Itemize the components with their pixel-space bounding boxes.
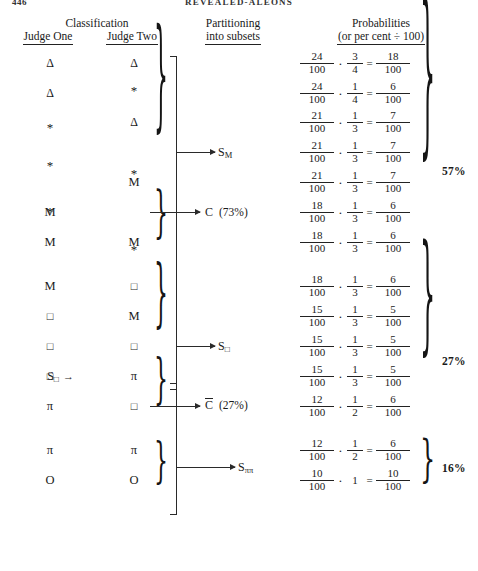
probability-first-fraction: 12100: [300, 438, 334, 461]
probability-first-fraction-denominator: 100: [300, 346, 334, 358]
probability-second-fraction-denominator: 3: [347, 286, 363, 298]
probability-second-fraction: 13: [347, 140, 363, 163]
probability-first-fraction-numerator: 10: [300, 468, 334, 479]
classification-cell-judge-one: □: [20, 340, 80, 352]
probability-result-fraction: 7100: [376, 140, 410, 163]
probability-second-fraction: 13: [347, 304, 363, 327]
probability-result-fraction: 18100: [376, 51, 410, 74]
probability-second-fraction-numerator: 1: [347, 110, 363, 121]
classification-cell-judge-one: M: [20, 206, 80, 218]
subset-pointer-base: S: [47, 369, 54, 383]
probability-row: 12100·12=6100: [300, 393, 430, 419]
probability-second-fraction: 12: [347, 394, 363, 417]
partition-label-subset-m: SM: [218, 145, 232, 160]
probability-first-fraction: 15100: [300, 364, 334, 387]
probability-second-fraction: 14: [347, 81, 363, 104]
classification-cell-judge-one: *: [20, 124, 80, 132]
partition-label-set-cbar: C(27%): [205, 398, 248, 413]
probability-second-fraction: 12: [347, 438, 363, 461]
probability-result-fraction-denominator: 100: [376, 122, 410, 134]
probability-result-fraction-denominator: 100: [376, 286, 410, 298]
probability-second-fraction-denominator: 3: [347, 376, 363, 388]
classification-cell-judge-one: M: [20, 236, 80, 248]
probability-result-fraction-denominator: 100: [376, 93, 410, 105]
classification-cell-judge-one: Δ: [20, 57, 80, 69]
probability-row: 24100·34=18100: [300, 50, 430, 76]
multiply-dot-icon: ·: [334, 205, 347, 221]
probability-first-fraction: 15100: [300, 304, 334, 327]
equals-sign: =: [363, 400, 376, 412]
probability-row: 21100·13=7100: [300, 169, 430, 195]
arrow-to-subset-box: [177, 346, 215, 347]
probability-row: 18100·13=6100: [300, 229, 430, 255]
probability-first-fraction-denominator: 100: [300, 122, 334, 134]
probability-first-fraction-numerator: 12: [300, 394, 334, 405]
classification-cell-judge-one: M: [20, 280, 80, 292]
probability-row: 15100·13=5100: [300, 303, 430, 329]
probability-first-fraction: 21100: [300, 170, 334, 193]
equals-sign: =: [363, 474, 376, 486]
probability-result-fraction-numerator: 6: [376, 438, 410, 449]
probability-second-fraction: 34: [347, 51, 363, 74]
probability-result-fraction-numerator: 6: [376, 230, 410, 241]
probability-second-fraction-denominator: 3: [347, 182, 363, 194]
partition-rule-lower-bottom-serif: [170, 514, 177, 515]
probability-result-fraction: 6100: [376, 438, 410, 461]
probability-first-fraction-denominator: 100: [300, 212, 334, 224]
probability-second-fraction-numerator: 1: [347, 304, 363, 315]
probability-result-fraction-numerator: 5: [376, 334, 410, 345]
arrow-to-set-cbar: [150, 406, 200, 407]
probability-second-fraction-denominator: 3: [347, 316, 363, 328]
probability-second-fraction: 13: [347, 170, 363, 193]
probability-second-fraction-numerator: 1: [347, 230, 363, 241]
probability-first-fraction: 10100: [300, 468, 334, 491]
probability-result-fraction: 5100: [376, 304, 410, 327]
probability-first-fraction: 18100: [300, 230, 334, 253]
brace-cbar: }: [154, 351, 168, 405]
arrow-to-set-c: [150, 212, 200, 213]
probability-first-fraction-numerator: 21: [300, 110, 334, 121]
probability-result-fraction: 6100: [376, 394, 410, 417]
probability-result-fraction-denominator: 100: [376, 376, 410, 388]
partition-rule-lower-top-serif: [170, 383, 177, 384]
classification-cell-judge-one: Δ: [20, 87, 80, 99]
probability-result-fraction-denominator: 100: [376, 152, 410, 164]
probability-second-fraction-numerator: 1: [347, 364, 363, 375]
probability-first-fraction: 24100: [300, 51, 334, 74]
probability-first-fraction-denominator: 100: [300, 450, 334, 462]
partition-label-subset-box-subscript: □: [225, 344, 230, 354]
probability-first-fraction-numerator: 21: [300, 170, 334, 181]
probability-second-fraction-numerator: 1: [347, 81, 363, 92]
partition-label-subset-box-base: S: [218, 339, 225, 353]
multiply-dot-icon: ·: [334, 145, 347, 161]
probability-second-fraction-numerator: 3: [347, 51, 363, 62]
multiply-dot-icon: ·: [334, 279, 347, 295]
probability-second-fraction-denominator: 3: [347, 152, 363, 164]
probability-result-fraction-denominator: 100: [376, 450, 410, 462]
probability-row: 15100·13=5100: [300, 333, 430, 359]
probability-first-fraction-denominator: 100: [300, 376, 334, 388]
probability-result-fraction: 7100: [376, 170, 410, 193]
probability-second-fraction-denominator: 2: [347, 406, 363, 418]
partition-label-subset-pipi: Sππ: [238, 460, 253, 475]
probability-second-fraction-numerator: 1: [347, 200, 363, 211]
probability-second-fraction-denominator: 3: [347, 122, 363, 134]
multiply-dot-icon: ·: [334, 339, 347, 355]
equals-sign: =: [363, 340, 376, 352]
probability-result-fraction: 7100: [376, 110, 410, 133]
probability-row: 10100·1=10100: [300, 467, 430, 493]
probability-result-fraction-denominator: 100: [376, 346, 410, 358]
probability-second-whole: 1: [347, 474, 363, 486]
probability-result-fraction-denominator: 100: [376, 63, 410, 75]
probability-second-fraction-numerator: 1: [347, 170, 363, 181]
probability-row: 15100·13=5100: [300, 363, 430, 389]
probability-first-fraction-denominator: 100: [300, 406, 334, 418]
probability-first-fraction-numerator: 18: [300, 274, 334, 285]
probability-result-fraction-denominator: 100: [376, 480, 410, 492]
probability-row: 21100·13=7100: [300, 109, 430, 135]
partition-rule-upper: [176, 56, 177, 390]
equals-sign: =: [363, 146, 376, 158]
arrow-to-subset-m: [177, 152, 215, 153]
probability-second-fraction-denominator: 4: [347, 63, 363, 75]
partition-label-set-c-percent: (73%): [219, 206, 248, 218]
